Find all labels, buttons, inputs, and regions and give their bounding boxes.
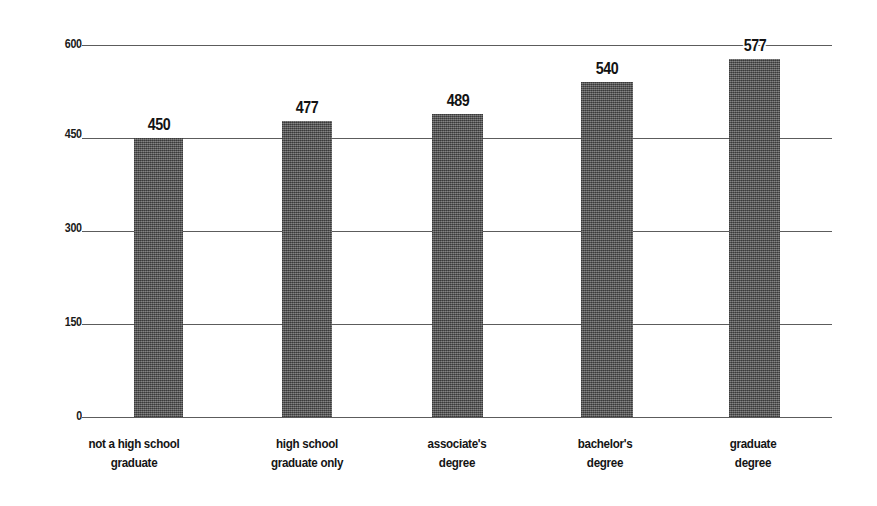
bar-group-0: 450 — [134, 138, 183, 417]
plot-area: 450 477 489 540 577 — [82, 45, 832, 417]
bar-group-1: 477 — [282, 121, 332, 417]
bar — [581, 82, 633, 417]
y-tick-label-600: 600 — [65, 36, 82, 51]
gridline-0 — [82, 417, 832, 418]
y-tick-label-300: 300 — [65, 220, 82, 235]
bar-value-label: 489 — [446, 91, 468, 111]
bar-group-2: 489 — [432, 114, 483, 417]
x-axis-label-0: not a high school graduate — [65, 434, 203, 472]
bar — [729, 59, 780, 417]
bar — [432, 114, 483, 417]
bar-value-label: 540 — [596, 59, 618, 79]
x-axis-label-1: high school graduate only — [238, 434, 376, 472]
y-tick-label-150: 150 — [65, 314, 82, 329]
bar-value-label: 477 — [296, 98, 318, 118]
x-axis-label-2: associate's degree — [388, 434, 526, 472]
bar — [134, 138, 183, 417]
x-axis-label-3: bachelor's degree — [536, 434, 674, 472]
x-axis-label-4: graduate degree — [684, 434, 822, 472]
bar-group-3: 540 — [581, 82, 633, 417]
y-tick-label-450: 450 — [65, 126, 82, 141]
bar-group-4: 577 — [729, 59, 780, 417]
bar-chart: 600 450 300 150 0 450 477 489 540 — [0, 0, 877, 506]
bar — [282, 121, 332, 417]
bar-value-label: 577 — [743, 36, 765, 56]
gridline-600 — [82, 45, 832, 46]
bar-value-label: 450 — [147, 115, 169, 135]
